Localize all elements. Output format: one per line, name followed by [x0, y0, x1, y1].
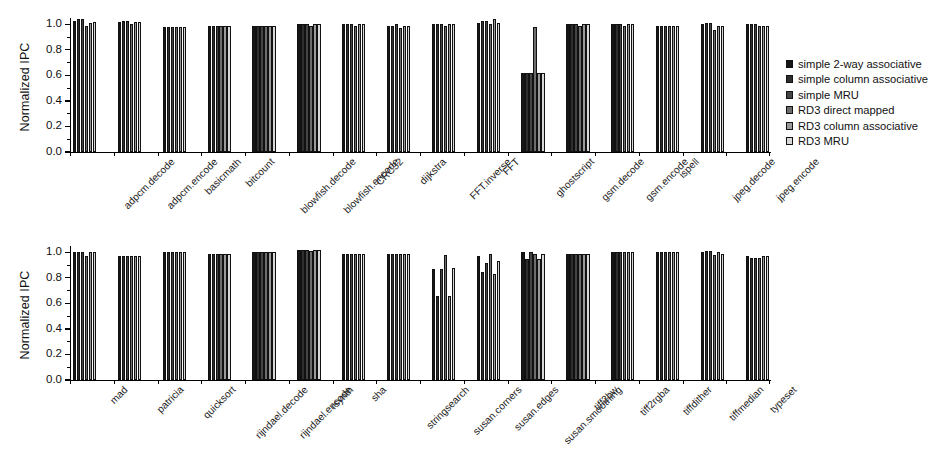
bar: [660, 252, 663, 380]
y-axis-ticks-top: 1.00.80.60.40.20.0: [0, 4, 70, 138]
bar: [717, 26, 720, 152]
y-tick-label: 0.8: [46, 43, 62, 55]
bar: [264, 252, 267, 380]
bar: [85, 256, 88, 380]
bar: [85, 26, 88, 152]
bar-group: [566, 246, 589, 380]
bar: [252, 26, 255, 152]
x-axis-tick-label: jpeg.decode: [730, 156, 777, 203]
legend-item: simple MRU: [786, 87, 946, 103]
legend-swatch-icon: [786, 60, 793, 68]
bar: [521, 73, 524, 152]
bar: [436, 296, 439, 380]
bar-group: [611, 18, 634, 152]
bar: [521, 252, 524, 380]
bar: [615, 24, 618, 152]
bar-group: [118, 18, 141, 152]
plot-area-top: [70, 18, 771, 153]
y-tick-label: 0.4: [46, 322, 62, 334]
y-tick-label: 0.2: [46, 119, 62, 131]
bar-group: [521, 18, 544, 152]
x-axis-tick-label: typeset: [767, 384, 798, 415]
bar: [611, 24, 614, 152]
bar: [342, 254, 345, 380]
bar: [216, 26, 219, 152]
bar: [746, 24, 749, 152]
bar: [525, 73, 528, 152]
chart-panel-top: Normalized IPC 1.00.80.60.40.20.0 adpcm.…: [0, 4, 780, 232]
bar: [541, 254, 544, 380]
bar: [313, 24, 316, 152]
bar: [167, 252, 170, 380]
y-tick-label: 1.0: [46, 245, 62, 257]
bar: [766, 26, 769, 152]
bar: [432, 269, 435, 380]
bar: [77, 252, 80, 380]
bar: [73, 21, 76, 152]
y-tick-label: 0.8: [46, 271, 62, 283]
x-axis-tick-label: jpeg.encode: [774, 156, 821, 203]
bar: [448, 296, 451, 380]
bar: [122, 21, 125, 152]
bar: [664, 26, 667, 152]
bar: [615, 252, 618, 380]
bar: [212, 26, 215, 152]
bar: [179, 27, 182, 152]
bar: [623, 252, 626, 380]
bar: [566, 24, 569, 152]
bar: [89, 252, 92, 380]
bar: [362, 24, 365, 152]
x-axis-tick-label: stringsearch: [424, 384, 471, 431]
bar: [130, 256, 133, 380]
chart-legend: simple 2-way associativesimple column as…: [786, 56, 946, 149]
bar: [301, 24, 304, 152]
bar: [676, 26, 679, 152]
bar: [631, 252, 634, 380]
bar: [656, 26, 659, 152]
bar-group: [342, 18, 365, 152]
bar-group: [297, 18, 320, 152]
bar: [672, 26, 675, 152]
bar: [309, 26, 312, 152]
bar: [489, 24, 492, 152]
x-axis-tick-label: rsynth: [328, 384, 355, 411]
bar: [77, 19, 80, 152]
bar: [317, 24, 320, 152]
bar: [313, 250, 316, 380]
bar: [676, 252, 679, 380]
bar: [631, 24, 634, 152]
bar: [73, 252, 76, 380]
bar: [578, 26, 581, 152]
bar-group: [252, 18, 275, 152]
chart-panel-bottom: Normalized IPC 1.00.80.60.40.20.0 madpat…: [0, 232, 780, 451]
bar: [403, 26, 406, 152]
legend-label: simple MRU: [798, 89, 859, 101]
y-axis-ticks-bottom: 1.00.80.60.40.20.0: [0, 232, 70, 366]
bar: [627, 24, 630, 152]
bar: [611, 252, 614, 380]
bar: [701, 24, 704, 152]
figure-normalized-ipc: Normalized IPC 1.00.80.60.40.20.0 adpcm.…: [0, 0, 951, 451]
bar: [399, 254, 402, 380]
x-axis-labels-bottom: madpatriciaquicksortrijndael.decoderijnd…: [70, 382, 770, 451]
bar: [750, 24, 753, 152]
bar: [256, 252, 259, 380]
bar: [407, 26, 410, 152]
bar: [672, 252, 675, 380]
bar: [497, 261, 500, 380]
bar: [529, 73, 532, 152]
x-axis-tick-label: patricia: [155, 384, 186, 415]
bar: [709, 251, 712, 380]
legend-item: RD3 MRU: [786, 134, 946, 150]
bar: [709, 23, 712, 152]
bar: [179, 252, 182, 380]
bar: [301, 250, 304, 380]
bar-groups-bottom: [71, 246, 771, 380]
bar: [163, 252, 166, 380]
bar: [391, 26, 394, 152]
x-axis-tick-label: quicksort: [201, 384, 238, 421]
bar: [533, 27, 536, 152]
bar-group: [701, 18, 724, 152]
bar: [272, 252, 275, 380]
bar: [219, 26, 222, 152]
